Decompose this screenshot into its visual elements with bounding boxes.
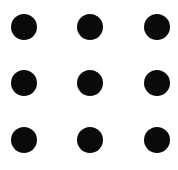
dot-r0-c0 bbox=[11, 14, 37, 40]
dot-r2-c2 bbox=[144, 127, 170, 153]
dot-r1-c0 bbox=[11, 70, 37, 96]
dot-r0-c2 bbox=[144, 14, 170, 40]
dot-r2-c1 bbox=[77, 127, 103, 153]
dot-r0-c1 bbox=[77, 14, 103, 40]
dot-r1-c1 bbox=[77, 70, 103, 96]
dot-r1-c2 bbox=[144, 70, 170, 96]
nine-dot-grid bbox=[0, 0, 178, 170]
dot-r2-c0 bbox=[11, 127, 37, 153]
